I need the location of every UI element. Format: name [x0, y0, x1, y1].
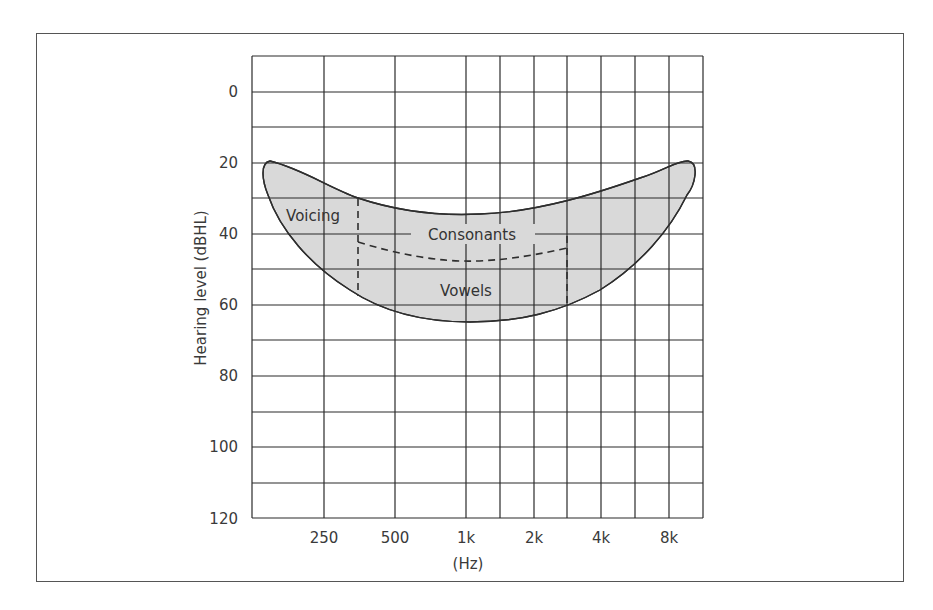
x-tick: 500	[381, 529, 410, 547]
audiogram-chart: Voicing Consonants Vowels 0 20 40 60 80 …	[0, 0, 933, 610]
x-axis-ticks: 250 500 1k 2k 4k 8k	[310, 529, 679, 547]
y-tick: 20	[219, 154, 238, 172]
x-tick: 1k	[457, 529, 476, 547]
x-tick: 250	[310, 529, 339, 547]
consonants-label: Consonants	[428, 226, 516, 244]
x-tick: 8k	[660, 529, 679, 547]
vowels-label: Vowels	[440, 282, 492, 300]
y-tick: 100	[209, 438, 238, 456]
voicing-label: Voicing	[286, 207, 340, 225]
y-axis-title: Hearing level (dBHL)	[192, 210, 210, 365]
x-axis-title: (Hz)	[453, 555, 484, 573]
x-tick: 2k	[525, 529, 544, 547]
y-axis-ticks: 0 20 40 60 80 100 120	[209, 83, 238, 528]
x-tick: 4k	[592, 529, 611, 547]
y-tick: 0	[228, 83, 238, 101]
y-tick: 80	[219, 367, 238, 385]
y-tick: 60	[219, 296, 238, 314]
y-tick: 120	[209, 510, 238, 528]
y-tick: 40	[219, 225, 238, 243]
